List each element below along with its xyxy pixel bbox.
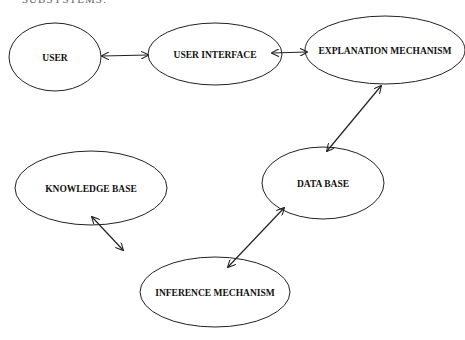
node-data-base: DATA BASE [262, 147, 384, 219]
nodes-group: USERUSER INTERFACEEXPLANATION MECHANISMD… [9, 16, 465, 327]
node-label: USER INTERFACE [174, 50, 257, 60]
node-explanation-mechanism: EXPLANATION MECHANISM [305, 16, 465, 84]
node-inference-mechanism: INFERENCE MECHANISM [140, 257, 290, 327]
edge-user-to-user-interface [102, 55, 148, 56]
node-label: EXPLANATION MECHANISM [318, 46, 451, 56]
node-label: USER [42, 53, 67, 63]
node-user-interface: USER INTERFACE [148, 23, 282, 85]
node-label: KNOWLEDGE BASE [45, 184, 137, 194]
node-label: INFERENCE MECHANISM [155, 288, 275, 298]
edge-knowledge-base-to-inference-mechanism [92, 217, 123, 250]
edge-explanation-mechanism-to-data-base [327, 86, 381, 151]
diagram-canvas: USERUSER INTERFACEEXPLANATION MECHANISMD… [0, 0, 465, 340]
node-user: USER [9, 23, 101, 91]
node-label: DATA BASE [297, 179, 349, 189]
edges-group [92, 52, 381, 267]
edge-user-interface-to-explanation-mechanism [272, 52, 307, 53]
node-knowledge-base: KNOWLEDGE BASE [15, 151, 167, 225]
